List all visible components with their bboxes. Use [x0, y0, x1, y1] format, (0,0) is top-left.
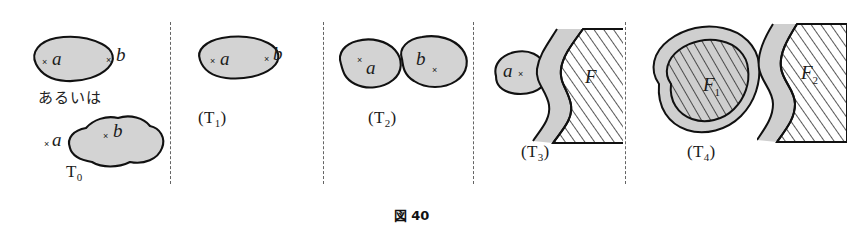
- t0-upper-a-point: ×: [42, 58, 47, 67]
- t2-b-point: ×: [432, 66, 437, 75]
- t1-b-point: ×: [264, 55, 269, 64]
- panel-label-t4-sub: 4: [704, 151, 710, 163]
- panel-t2: × a b × (T2): [323, 0, 473, 200]
- panel-label-t2-text: (T: [368, 108, 385, 127]
- t0-lower-b-label: b: [113, 120, 123, 142]
- t2-a-point: ×: [357, 56, 362, 65]
- t3-f-label: F: [585, 66, 597, 88]
- t4-f1-label-sub: 1: [715, 86, 721, 98]
- t0-connector-text: あるいは: [38, 86, 102, 107]
- panel-t0: × a × b あるいは × a × b T0: [0, 0, 170, 200]
- panel-label-t0: T0: [66, 162, 83, 183]
- t0-lower-a-point: ×: [44, 140, 49, 149]
- t0-lower-b-point: ×: [103, 132, 108, 141]
- t0-upper-b-label: b: [116, 44, 126, 66]
- t4-f2-label-text: F: [801, 62, 813, 83]
- t2-b-label: b: [416, 48, 426, 70]
- panel-label-t4: (T4): [687, 142, 715, 163]
- panel-t4: F1 F2 (T4): [625, 0, 823, 200]
- panel-t3: a × F (T3): [473, 0, 625, 200]
- panel-label-t3-sub: 3: [538, 151, 544, 163]
- t1-a-label: a: [220, 48, 230, 70]
- t2-blob-b: [396, 33, 476, 91]
- t0-lower-a-label: a: [52, 129, 62, 151]
- panel-label-t1-sub: 1: [215, 117, 221, 129]
- t4-f1-label: F1: [703, 74, 720, 98]
- panel-label-t2: (T2): [368, 108, 396, 129]
- t4-f2-label-sub: 2: [813, 74, 819, 86]
- t0-upper-a-label: a: [52, 48, 62, 70]
- panel-label-t1: (T1): [198, 108, 226, 129]
- panel-label-t4-text: (T: [687, 142, 704, 161]
- panel-label-t0-text: T: [66, 162, 77, 181]
- panel-label-t2-sub: 2: [385, 117, 391, 129]
- panel-label-t1-text: (T: [198, 108, 215, 127]
- t4-f2-label: F2: [801, 62, 818, 86]
- t1-b-label: b: [273, 43, 283, 65]
- t4-f1-label-text: F: [703, 74, 715, 95]
- figure-caption: 図 40: [0, 205, 823, 224]
- panel-label-t3: (T3): [521, 142, 549, 163]
- t2-a-label: a: [366, 57, 376, 79]
- panel-t1: × a × b (T1): [170, 0, 323, 200]
- t1-a-point: ×: [210, 57, 215, 66]
- t0-upper-b-point: ×: [106, 56, 111, 65]
- panel-label-t3-text: (T: [521, 142, 538, 161]
- panel-label-t0-sub: 0: [77, 171, 83, 183]
